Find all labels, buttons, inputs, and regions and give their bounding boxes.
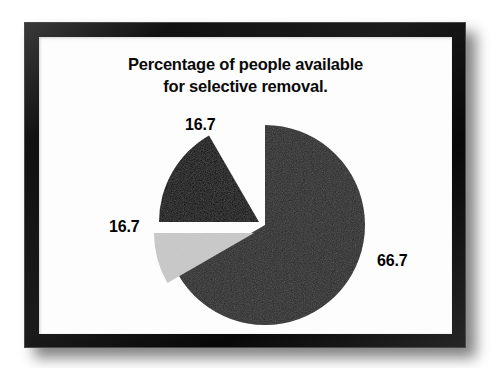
pie-chart <box>39 37 451 333</box>
pie-slice-black <box>159 135 259 222</box>
pie-chart-svg <box>39 37 451 333</box>
pie-label-left: 16.7 <box>109 218 139 236</box>
chart-canvas: Percentage of people available for selec… <box>39 37 452 334</box>
pie-label-top: 16.7 <box>185 116 215 134</box>
pie-label-right: 66.7 <box>377 252 407 270</box>
picture-frame: Percentage of people available for selec… <box>24 22 466 348</box>
figure-scene: Percentage of people available for selec… <box>0 0 500 368</box>
